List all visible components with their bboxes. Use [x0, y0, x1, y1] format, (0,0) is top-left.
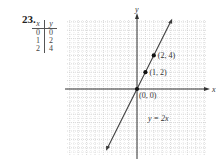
equation-label: y = 2x — [147, 114, 169, 123]
line-arrow-bottom — [106, 146, 110, 151]
point-label: (1, 2) — [149, 68, 167, 77]
coordinate-plane: (0, 0)(1, 2)(2, 4) x y y = 2x — [0, 0, 217, 160]
y-axis-label: y — [134, 5, 139, 14]
line-arrow-top — [168, 19, 172, 24]
x-axis-label: x — [211, 85, 216, 94]
data-point — [143, 70, 147, 74]
point-label: (2, 4) — [158, 51, 176, 60]
data-point — [152, 53, 156, 57]
x-axis-arrow — [204, 87, 210, 91]
point-label: (0, 0) — [139, 91, 157, 100]
